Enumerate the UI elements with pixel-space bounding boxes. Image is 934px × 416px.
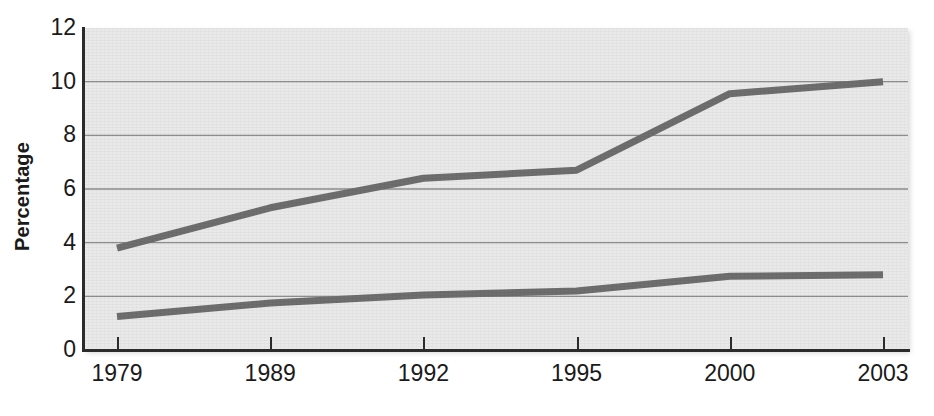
x-tickmark	[270, 337, 272, 352]
y-tick-label: 12	[32, 16, 76, 39]
y-axis-tick-labels: 024681012	[24, 0, 76, 416]
x-tick-label: 2000	[675, 362, 785, 385]
plot-area	[84, 28, 908, 350]
x-axis-tick-labels: 197919891992199520002003	[0, 362, 934, 402]
data-line-upper-series	[117, 82, 883, 248]
plot-canvas	[84, 28, 908, 350]
x-tickmark	[883, 337, 885, 352]
y-tick-label: 4	[32, 231, 76, 254]
y-tick-label: 10	[32, 70, 76, 93]
data-series-lines	[117, 82, 883, 317]
line-chart-figure: Percentage 024681012 1979198919921995200…	[0, 0, 934, 416]
x-tickmark	[577, 337, 579, 352]
x-tickmark	[423, 337, 425, 352]
x-tick-label: 1989	[215, 362, 325, 385]
y-tick-label: 6	[32, 177, 76, 200]
x-tick-label: 1995	[522, 362, 632, 385]
x-tickmark	[730, 337, 732, 352]
y-tick-label: 0	[32, 338, 76, 361]
x-tick-label: 1979	[62, 362, 172, 385]
gridlines	[84, 82, 908, 297]
y-axis-spine	[82, 27, 85, 351]
x-tick-label: 1992	[368, 362, 478, 385]
x-tickmark	[117, 337, 119, 352]
y-tick-label: 2	[32, 284, 76, 307]
x-tick-label: 2003	[828, 362, 934, 385]
y-tick-label: 8	[32, 123, 76, 146]
x-axis-spine	[82, 349, 910, 352]
